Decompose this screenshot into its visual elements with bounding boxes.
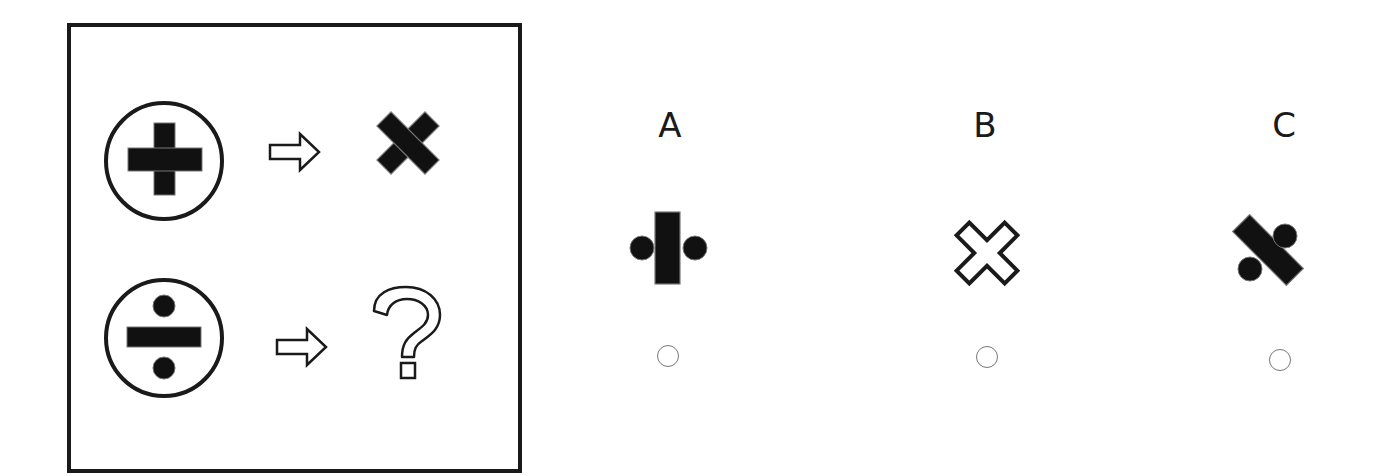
option-b-label: B: [955, 105, 1015, 145]
option-c-label: C: [1254, 105, 1314, 145]
option-a-figure-icon: [625, 208, 720, 290]
plus-in-circle-icon: [101, 98, 227, 224]
option-c-radio[interactable]: [1269, 349, 1291, 371]
option-b-outlined-multiply-icon: [948, 214, 1026, 292]
option-c-figure-icon: [1228, 210, 1318, 294]
option-b-radio[interactable]: [976, 346, 998, 368]
hollow-arrow-right-icon: [275, 325, 329, 369]
divide-in-circle-icon: [101, 275, 227, 401]
question-mark-icon: [370, 285, 450, 385]
filled-multiply-icon: [370, 105, 446, 181]
option-a-radio[interactable]: [657, 345, 679, 367]
hollow-arrow-right-icon: [268, 130, 322, 174]
option-a-label: A: [640, 105, 700, 145]
question-panel: [67, 23, 522, 473]
